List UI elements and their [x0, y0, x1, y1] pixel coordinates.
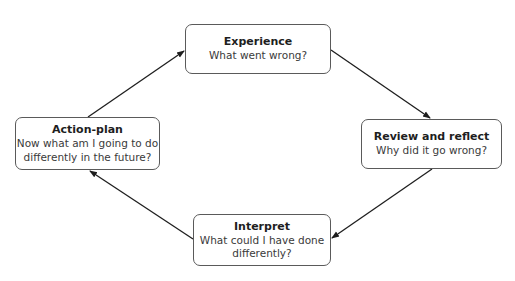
- node-title: Interpret: [234, 220, 290, 234]
- arrow-action-to-experience: [88, 51, 184, 117]
- arrow-review-to-interpret: [332, 169, 432, 238]
- node-description: Why did it go wrong?: [376, 144, 487, 158]
- node-title: Review and reflect: [374, 130, 490, 144]
- node-title: Action-plan: [52, 123, 123, 137]
- node-description: What went wrong?: [209, 49, 307, 63]
- node-interpret: Interpret What could I have done differe…: [193, 214, 331, 266]
- node-experience: Experience What went wrong?: [185, 24, 331, 74]
- arrow-experience-to-review: [331, 50, 430, 118]
- node-description-line-1: What could I have done: [200, 234, 324, 248]
- node-description-line-1: Now what am I going to do: [17, 137, 158, 151]
- node-title: Experience: [224, 35, 292, 49]
- arrow-interpret-to-action: [90, 171, 193, 239]
- node-review-and-reflect: Review and reflect Why did it go wrong?: [361, 119, 502, 169]
- node-description-line-2: differently?: [232, 247, 291, 261]
- node-action-plan: Action-plan Now what am I going to do di…: [15, 117, 160, 170]
- node-description-line-2: differently in the future?: [24, 151, 152, 165]
